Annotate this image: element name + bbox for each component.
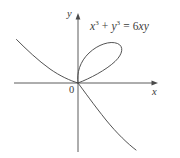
equation-annotation: x3 + y3 = 6xy: [90, 21, 149, 33]
curve-lower-right-branch: [78, 83, 136, 150]
x-axis-arrowhead: [152, 81, 159, 86]
curve-upper-left-branch: [17, 40, 79, 84]
y-axis-label: y: [67, 9, 72, 20]
equation-xy: xy: [139, 20, 149, 32]
curve-loop: [78, 43, 122, 83]
origin-label: 0: [69, 85, 74, 96]
folium-of-descartes-figure: x3 + y3 = 6xy x y 0: [0, 0, 180, 158]
equation-equals-six: = 6: [120, 20, 138, 32]
equation-plus: +: [99, 20, 112, 32]
axes-group: [14, 13, 158, 152]
y-axis-arrowhead: [76, 13, 81, 20]
curve-group: [17, 40, 137, 151]
x-axis-label: x: [152, 87, 157, 98]
